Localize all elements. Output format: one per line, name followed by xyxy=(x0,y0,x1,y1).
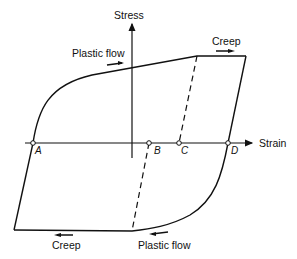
dashed-unload-upper xyxy=(179,56,197,143)
arrow-left-icon xyxy=(54,233,73,237)
hysteresis-diagram xyxy=(0,0,297,259)
point-a-label: A xyxy=(35,145,42,156)
plastic-flow-label-top: Plastic flow xyxy=(72,47,125,59)
arrow-left-icon xyxy=(149,232,168,236)
loading-curve xyxy=(33,56,246,143)
dashed-unload-lower xyxy=(132,143,149,231)
point-d-label: D xyxy=(231,145,238,156)
stress-axis-label: Stress xyxy=(114,9,144,21)
creep-label-top: Creep xyxy=(212,35,241,47)
reverse-loading-curve xyxy=(14,143,228,231)
point-b-label: B xyxy=(154,145,161,156)
unloading-line-left xyxy=(14,143,33,230)
strain-axis-label: Strain xyxy=(259,137,286,149)
plastic-flow-label-bottom: Plastic flow xyxy=(138,239,191,251)
arrow-right-icon xyxy=(107,61,124,65)
arrow-right-icon xyxy=(216,49,235,53)
point-d-marker xyxy=(226,141,231,146)
unloading-line-right xyxy=(228,56,246,143)
creep-label-bottom: Creep xyxy=(52,239,81,251)
point-c-label: C xyxy=(181,145,188,156)
point-b-marker xyxy=(147,141,152,146)
